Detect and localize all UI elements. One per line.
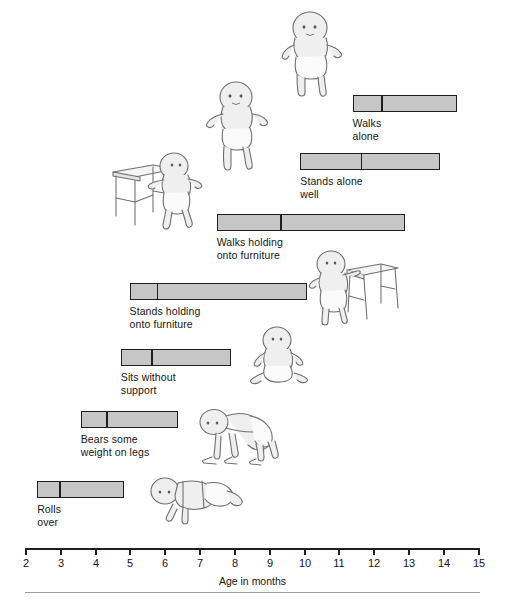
milestone-label-stands-holding-onto-furniture: Stands holding onto furniture <box>130 305 201 330</box>
baby-cruising-along-table-illustration <box>108 150 212 230</box>
x-axis-tick-label: 3 <box>46 557 76 569</box>
x-axis-tick <box>234 548 236 555</box>
x-axis-tick <box>164 548 166 555</box>
median-divider <box>361 154 363 169</box>
milestone-bar-sits-without-support <box>121 349 231 366</box>
x-axis-tick-label: 6 <box>150 557 180 569</box>
x-axis-tick-label: 11 <box>324 557 354 569</box>
median-divider <box>157 284 159 299</box>
milestone-bar-stands-holding-onto-furniture <box>130 283 308 300</box>
x-axis-tick-label: 8 <box>220 557 250 569</box>
x-axis-tick <box>408 548 410 555</box>
milestone-label-stands-alone-well: Stands alone well <box>300 175 363 200</box>
x-axis-tick-label: 2 <box>11 557 41 569</box>
bottom-divider-rule <box>25 592 480 593</box>
baby-pulling-up-on-stool-illustration <box>305 248 401 326</box>
x-axis-tick <box>338 548 340 555</box>
x-axis-tick <box>199 548 201 555</box>
median-divider <box>381 96 383 111</box>
x-axis-tick-label: 13 <box>394 557 424 569</box>
milestone-label-bears-some-weight-on-legs: Bears some weight on legs <box>81 433 150 458</box>
milestone-bar-walks-alone <box>353 95 458 112</box>
x-axis-tick <box>269 548 271 555</box>
x-axis-line <box>25 548 478 550</box>
milestone-label-sits-without-support: Sits without support <box>121 371 176 396</box>
x-axis-tick-label: 4 <box>81 557 111 569</box>
x-axis-tick-label: 12 <box>359 557 389 569</box>
x-axis-tick-label: 15 <box>464 557 494 569</box>
x-axis-tick <box>129 548 131 555</box>
x-axis-tick-label: 9 <box>255 557 285 569</box>
x-axis-tick <box>60 548 62 555</box>
developmental-milestones-figure: Walks alone Stands alone well Walks hold… <box>0 0 505 604</box>
milestone-bar-walks-holding-onto-furniture <box>217 214 405 231</box>
median-divider <box>106 412 108 427</box>
x-axis-tick <box>25 548 27 555</box>
x-axis-tick-label: 5 <box>115 557 145 569</box>
milestone-label-walks-alone: Walks alone <box>353 117 382 142</box>
milestone-label-rolls-over: Rolls over <box>37 503 61 528</box>
x-axis-tick <box>95 548 97 555</box>
milestone-bar-stands-alone-well <box>300 153 439 170</box>
x-axis-tick <box>443 548 445 555</box>
median-divider <box>151 350 153 365</box>
x-axis-tick <box>373 548 375 555</box>
x-axis-tick-label: 14 <box>429 557 459 569</box>
baby-sitting-unsupported-illustration <box>246 325 318 387</box>
baby-walking-alone-illustration <box>270 8 360 100</box>
x-axis-title: Age in months <box>0 575 505 587</box>
x-axis: 2 3 4 5 6 7 8 9 10 11 12 13 14 15 Age in… <box>0 540 505 604</box>
baby-rolling-over-illustration <box>147 472 251 528</box>
median-divider <box>59 482 61 497</box>
chart-plot-area: Walks alone Stands alone well Walks hold… <box>0 0 505 540</box>
milestone-label-walks-holding-onto-furniture: Walks holding onto furniture <box>217 236 283 261</box>
milestone-bar-bears-some-weight-on-legs <box>81 411 179 428</box>
x-axis-tick <box>304 548 306 555</box>
median-divider <box>280 215 282 230</box>
milestone-bar-rolls-over <box>37 481 124 498</box>
x-axis-tick-label: 10 <box>290 557 320 569</box>
baby-bearing-weight-on-legs-illustration <box>192 402 292 468</box>
x-axis-tick <box>478 548 480 555</box>
x-axis-tick-label: 7 <box>185 557 215 569</box>
